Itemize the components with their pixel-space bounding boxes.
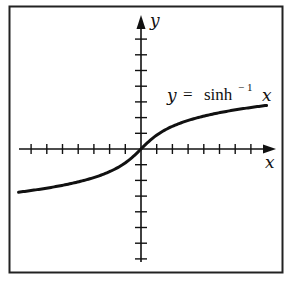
y-axis [135,15,147,262]
equation-equals: = [183,85,193,104]
equation-exponent: − 1 [238,81,252,93]
curve-annotation: y = sinh − 1 x [166,81,272,105]
y-axis-arrow-icon [137,15,146,29]
equation-function: sinh [204,85,233,104]
y-axis-label: y [149,10,160,30]
chart: y x y = sinh − 1 x [0,0,301,291]
equation-y: y [166,85,177,105]
x-axis [19,144,276,154]
chart-frame [10,7,283,273]
equation-x: x [262,85,272,105]
x-axis-label: x [265,152,275,172]
